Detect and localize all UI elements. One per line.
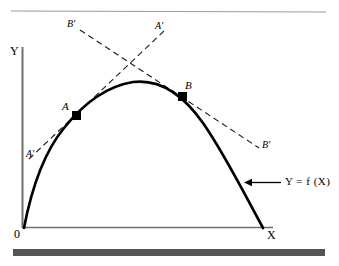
point-marker-a bbox=[72, 111, 81, 120]
diagram-svg bbox=[0, 0, 339, 266]
figure-canvas: Y X 0 A B A' A' B' B' Y = f (X) bbox=[0, 0, 339, 266]
tangent-b-start-label: B' bbox=[67, 19, 75, 29]
point-label-b: B bbox=[185, 80, 192, 91]
footer-bar bbox=[13, 249, 325, 256]
x-axis-label: X bbox=[267, 229, 276, 241]
function-callout-label: Y = f (X) bbox=[285, 176, 330, 187]
top-rule bbox=[11, 11, 326, 12]
point-marker-b bbox=[178, 92, 187, 101]
tangent-b-end-label: B' bbox=[262, 140, 270, 150]
point-label-a: A bbox=[62, 101, 69, 112]
tangent-line-a bbox=[29, 31, 164, 159]
tangent-a-start-label: A' bbox=[26, 149, 34, 159]
function-curve bbox=[24, 82, 263, 228]
tangent-a-end-label: A' bbox=[155, 21, 163, 31]
callout-arrow bbox=[244, 179, 281, 186]
origin-label: 0 bbox=[14, 228, 20, 240]
y-axis-label: Y bbox=[10, 45, 19, 57]
